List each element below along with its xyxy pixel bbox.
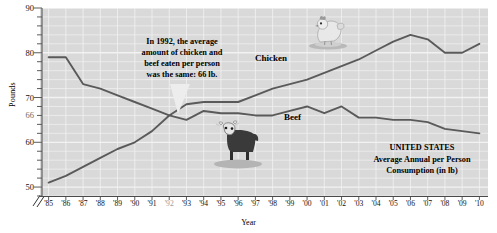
callout-annotation: In 1992, the averageamount of chicken an… xyxy=(106,36,258,80)
annotation-line: Average Annual per Person xyxy=(352,154,492,166)
annotation-line: amount of chicken and xyxy=(106,47,258,58)
x-axis-title: Year xyxy=(0,218,497,227)
series-label-beef: Beef xyxy=(284,112,301,122)
annotation-line: UNITED STATES xyxy=(352,142,492,154)
callout-pointer xyxy=(168,84,208,124)
annotation-line: was the same: 66 lb. xyxy=(106,69,258,80)
y-axis-tick-label: 66 xyxy=(8,111,34,119)
cow-icon xyxy=(209,114,267,170)
annotation-line: In 1992, the average xyxy=(106,36,258,47)
x-axis-tick-marks xyxy=(40,196,488,204)
annotation-line: Consumption (in lb) xyxy=(352,165,492,177)
y-axis-tick-label: 80 xyxy=(8,49,34,57)
chart-figure: Pounds 506066708090 '85'86'87'88'89'90'9… xyxy=(0,0,497,233)
annotation-line: beef eaten per person xyxy=(106,58,258,69)
y-axis-tick-label: 90 xyxy=(8,4,34,12)
chart-title-block: UNITED STATESAverage Annual per PersonCo… xyxy=(352,142,492,177)
y-axis-tick-label: 60 xyxy=(8,138,34,146)
chicken-icon xyxy=(306,9,350,51)
y-axis-tick-label: 70 xyxy=(8,94,34,102)
series-label-chicken: Chicken xyxy=(255,53,287,63)
